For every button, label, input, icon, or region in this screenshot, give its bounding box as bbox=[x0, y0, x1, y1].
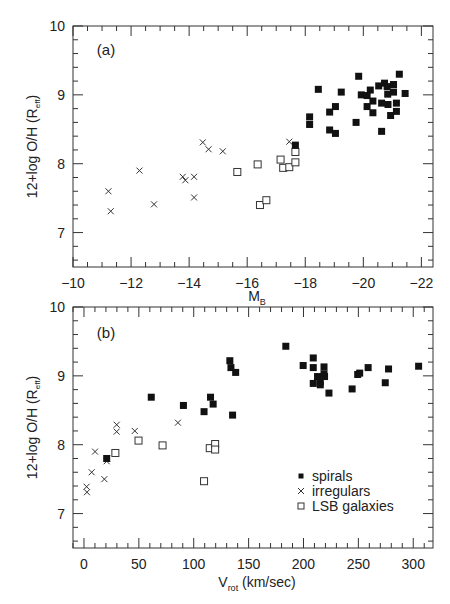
data-point bbox=[306, 121, 313, 128]
data-point bbox=[315, 86, 322, 93]
x-tick-label: −10 bbox=[61, 275, 85, 291]
data-point bbox=[200, 139, 206, 145]
legend-item: LSB galaxies bbox=[298, 498, 394, 514]
legend-item: irregulars bbox=[298, 483, 370, 499]
plot-frame bbox=[73, 26, 433, 267]
data-point bbox=[300, 362, 307, 369]
x-tick-label: 300 bbox=[402, 556, 426, 572]
data-point bbox=[325, 390, 332, 397]
data-point bbox=[105, 188, 111, 194]
y-axis-label: 12+log O/H (Reff) bbox=[24, 376, 42, 479]
legend-marker-open-square bbox=[298, 503, 304, 509]
panel-label: (a) bbox=[97, 41, 115, 58]
x-tick-label: −18 bbox=[293, 275, 317, 291]
x-tick-label: −14 bbox=[177, 275, 201, 291]
data-point bbox=[201, 478, 208, 485]
legend-marker-cross bbox=[298, 488, 304, 494]
panel-b: 05010015020025030078910(b)Vrot (km/sec)1… bbox=[24, 299, 433, 593]
data-point bbox=[385, 365, 392, 372]
data-point bbox=[402, 90, 409, 97]
data-point bbox=[232, 369, 239, 376]
data-point bbox=[89, 469, 95, 475]
data-point bbox=[390, 89, 397, 96]
data-point bbox=[220, 148, 226, 154]
legend-item: spirals bbox=[299, 468, 353, 484]
data-point bbox=[159, 442, 166, 449]
data-point bbox=[282, 343, 289, 350]
y-tick-label: 8 bbox=[57, 156, 65, 172]
data-point bbox=[206, 146, 212, 152]
data-point bbox=[103, 455, 110, 462]
data-point bbox=[132, 428, 138, 434]
data-point bbox=[234, 168, 241, 175]
data-point bbox=[292, 149, 299, 156]
data-point bbox=[151, 201, 157, 207]
data-point bbox=[396, 71, 403, 78]
data-point bbox=[378, 128, 385, 135]
data-point bbox=[292, 142, 299, 149]
data-point bbox=[310, 380, 317, 387]
data-point bbox=[114, 422, 120, 428]
data-point bbox=[292, 159, 299, 166]
data-point bbox=[353, 119, 360, 126]
data-point bbox=[180, 174, 186, 180]
legend-marker-filled-square bbox=[299, 474, 304, 479]
data-point bbox=[207, 394, 214, 401]
data-point bbox=[384, 83, 391, 90]
series-lsb-galaxies bbox=[234, 149, 299, 209]
data-point bbox=[393, 108, 400, 115]
x-tick-label: −22 bbox=[410, 275, 434, 291]
figure: −10−12−14−16−18−20−2278910(a)MB12+log O/… bbox=[0, 0, 450, 604]
data-point bbox=[254, 161, 261, 168]
series-irregulars bbox=[84, 420, 181, 496]
y-tick-label: 10 bbox=[49, 18, 65, 34]
data-point bbox=[355, 73, 362, 80]
x-axis-label: MB bbox=[248, 288, 266, 307]
data-point bbox=[212, 446, 219, 453]
y-tick-label: 8 bbox=[57, 437, 65, 453]
y-tick-label: 10 bbox=[49, 299, 65, 315]
data-point bbox=[191, 194, 197, 200]
y-axis-label: 12+log O/H (Reff) bbox=[24, 95, 42, 198]
data-point bbox=[175, 420, 181, 426]
data-point bbox=[369, 98, 376, 105]
data-point bbox=[365, 364, 372, 371]
data-point bbox=[393, 100, 400, 107]
data-point bbox=[356, 370, 363, 377]
data-point bbox=[210, 401, 217, 408]
legend: spiralsirregularsLSB galaxies bbox=[298, 468, 394, 514]
data-point bbox=[385, 101, 392, 108]
data-point bbox=[148, 394, 155, 401]
panel-a: −10−12−14−16−18−20−2278910(a)MB12+log O/… bbox=[24, 18, 433, 307]
data-point bbox=[332, 103, 339, 110]
x-tick-label: −12 bbox=[119, 275, 143, 291]
data-point bbox=[306, 113, 313, 120]
x-tick-label: 100 bbox=[182, 556, 206, 572]
data-point bbox=[84, 489, 90, 495]
y-tick-label: 7 bbox=[57, 506, 65, 522]
data-point bbox=[415, 363, 422, 370]
data-point bbox=[310, 354, 317, 361]
data-point bbox=[101, 476, 107, 482]
data-point bbox=[229, 412, 236, 419]
data-point bbox=[321, 373, 328, 380]
data-point bbox=[182, 177, 188, 183]
data-point bbox=[317, 381, 324, 388]
data-point bbox=[135, 437, 142, 444]
y-tick-label: 9 bbox=[57, 368, 65, 384]
data-point bbox=[310, 364, 317, 371]
x-tick-label: 50 bbox=[131, 556, 147, 572]
data-point bbox=[367, 87, 374, 94]
legend-label: spirals bbox=[312, 468, 352, 484]
data-point bbox=[84, 484, 90, 490]
data-point bbox=[338, 89, 345, 96]
x-tick-label: 200 bbox=[292, 556, 316, 572]
data-point bbox=[382, 379, 389, 386]
data-point bbox=[191, 174, 197, 180]
data-point bbox=[390, 81, 397, 88]
data-point bbox=[226, 357, 233, 364]
x-axis-label: Vrot (km/sec) bbox=[218, 574, 295, 593]
data-point bbox=[114, 429, 120, 435]
data-point bbox=[180, 402, 187, 409]
data-point bbox=[332, 130, 339, 137]
